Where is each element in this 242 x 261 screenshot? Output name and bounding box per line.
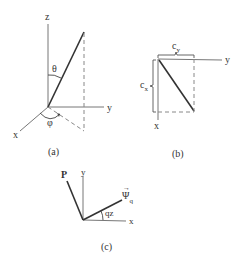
qz-angle-arc — [101, 211, 103, 220]
panel-b: y x cy cx (b) — [140, 40, 230, 160]
z-axis-label: z — [45, 11, 50, 22]
x-axis — [20, 107, 48, 131]
x-axis-label: x — [154, 120, 159, 131]
theta-label: θ — [52, 63, 57, 74]
x-axis-label: x — [129, 216, 134, 226]
x-axis-label: x — [13, 129, 18, 140]
panel-c-caption: (c) — [101, 241, 112, 253]
figure-diagram: z y x θ φ (a) y x cy cx (b) y x P → Ψq q… — [0, 0, 242, 261]
top-component-label: cy — [172, 40, 180, 54]
phi-label: φ — [47, 117, 53, 128]
y-axis — [158, 59, 222, 60]
left-component-label: cx — [140, 79, 148, 93]
panel-a-caption: (a) — [48, 146, 59, 158]
p-vector — [67, 181, 83, 220]
theta-arc — [48, 75, 61, 78]
left-brace — [150, 60, 156, 112]
panel-c: y x P → Ψq qz (c) — [61, 167, 134, 253]
panel-b-caption: (b) — [172, 148, 184, 160]
y-axis-label: y — [225, 54, 230, 65]
psi-label: Ψq — [122, 190, 133, 205]
y-axis-label: y — [107, 102, 112, 113]
y-axis-label: y — [81, 167, 86, 177]
rod-vector — [159, 60, 194, 111]
qz-angle-label: qz — [105, 208, 114, 218]
x-axis — [83, 220, 126, 221]
p-label: P — [61, 169, 67, 180]
projection-ground-dashed — [48, 107, 84, 131]
panel-a: z y x θ φ (a) — [13, 11, 112, 158]
